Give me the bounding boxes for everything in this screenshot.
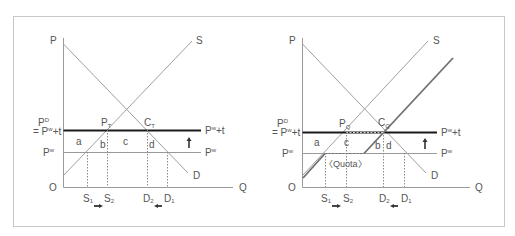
area-a-label: a — [76, 136, 82, 147]
left-arrow-icon — [154, 204, 162, 208]
area-d-label: d — [149, 139, 155, 150]
s1-label: S1 — [83, 193, 94, 204]
world-price-label: Pw — [43, 147, 55, 158]
left-arrow-icon — [390, 204, 398, 208]
point-cq-label: CQ — [378, 117, 390, 129]
world-price-right-label: Pw — [205, 147, 217, 158]
s1-label: S1 — [321, 193, 332, 204]
d1-label: D1 — [401, 193, 412, 204]
tariff-price-right-label: Pw+t — [205, 125, 225, 136]
right-panel-quota: P Q O S D PD = Pw+t Pw Pw+t Pw PQ CQ a c… — [272, 35, 483, 208]
right-arrow-icon — [332, 204, 341, 208]
point-pt-label: PT — [101, 117, 112, 129]
y-axis-label: P — [50, 35, 57, 46]
area-c-label: c — [344, 137, 349, 148]
supply-label: S — [196, 35, 203, 46]
point-pq-label: PQ — [339, 118, 351, 130]
demand-label: D — [431, 170, 438, 181]
x-axis-label: Q — [239, 182, 247, 193]
supply-curve — [64, 41, 192, 175]
area-b-label: b — [100, 139, 106, 150]
origin-label: O — [288, 182, 296, 193]
d2-label: D2 — [379, 193, 390, 204]
x-axis-label: Q — [475, 182, 483, 193]
left-panel-tariff: P Q O S D PD = Pw+t Pw Pw+t Pw PT CT a b… — [33, 35, 247, 208]
point-ct-label: CT — [144, 117, 155, 129]
origin-label: O — [49, 182, 57, 193]
area-d-label: d — [386, 140, 392, 151]
demand-curve — [64, 44, 189, 173]
up-arrow-icon — [187, 137, 192, 148]
world-price-label: Pw — [282, 148, 294, 159]
y-axis-label: P — [289, 35, 296, 46]
s2-label: S2 — [104, 193, 115, 204]
area-b-label: b — [375, 140, 381, 151]
d2-label: D2 — [143, 193, 154, 204]
s2-label: S2 — [343, 193, 354, 204]
tariff-vs-quota-diagram: P Q O S D PD = Pw+t Pw Pw+t Pw PT CT a b… — [0, 0, 515, 236]
tariff-price-right-label: Pw+t — [441, 127, 461, 138]
d1-label: D1 — [164, 193, 175, 204]
quota-label: 〈Quota〉 — [324, 159, 367, 169]
area-c-label: c — [123, 136, 128, 147]
domestic-price-eq-label: = Pw+t — [272, 127, 300, 138]
right-arrow-icon — [94, 204, 103, 208]
domestic-price-eq-label: = Pw+t — [33, 126, 61, 137]
supply-label: S — [433, 35, 440, 46]
up-arrow-icon — [423, 138, 428, 149]
world-price-right-label: Pw — [441, 148, 453, 159]
demand-label: D — [193, 170, 200, 181]
supply-plus-quota-curve — [303, 154, 325, 179]
area-a-label: a — [314, 137, 320, 148]
